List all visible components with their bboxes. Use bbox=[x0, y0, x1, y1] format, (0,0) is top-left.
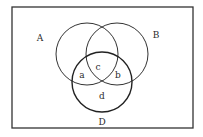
lower-circle bbox=[72, 52, 132, 112]
region-d-label: d bbox=[99, 92, 105, 101]
venn-diagram: A B a b c d D bbox=[0, 0, 203, 137]
region-a-label: a bbox=[79, 71, 84, 80]
set-a-circle bbox=[56, 23, 118, 85]
set-b-label: B bbox=[153, 31, 160, 40]
set-a-label: A bbox=[37, 34, 44, 43]
region-b-label: b bbox=[115, 71, 121, 80]
region-c-label: c bbox=[95, 63, 100, 72]
universe-rectangle bbox=[12, 7, 193, 128]
universe-label: D bbox=[98, 118, 105, 127]
